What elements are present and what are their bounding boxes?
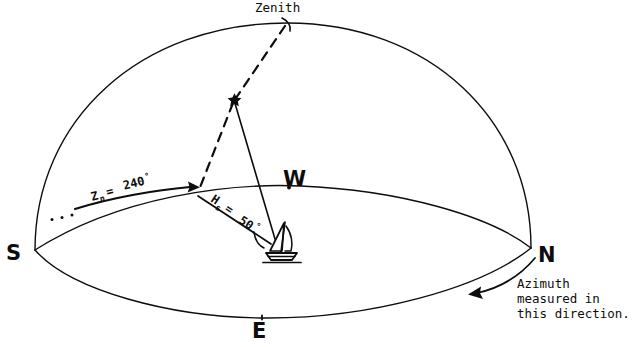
azimuth-lead-dot-2 (61, 216, 64, 219)
celestial-dome-arc (35, 23, 531, 250)
cardinal-label-west: W (283, 167, 306, 191)
zenith-to-star-dashed-line (236, 26, 285, 98)
celestial-sphere-drawing: Zenith S W N E Z n = 240 ° H s = 50 ° Az… (0, 0, 634, 347)
azimuth-degree-symbol: ° (143, 170, 150, 181)
azimuth-lead-dot-3 (71, 214, 74, 217)
cardinal-label-north: N (538, 243, 556, 267)
horizon-near-arc (35, 248, 531, 318)
direction-note-line-2: measured in (517, 291, 600, 306)
altitude-equals: = (222, 201, 236, 217)
direction-note-line-3: this direction. (517, 306, 630, 321)
cardinal-label-south: S (6, 241, 21, 265)
cardinal-label-east: E (252, 319, 266, 343)
celestial-sphere-diagram: Zenith S W N E Z n = 240 ° H s = 50 ° Az… (0, 0, 634, 347)
star-to-horizon-dashed-line (199, 103, 233, 190)
altitude-value: 50 (236, 213, 256, 233)
azimuth-subscript: n (99, 193, 106, 204)
azimuth-label-group: Z n = 240 ° (88, 170, 153, 205)
azimuth-equals: = (105, 184, 115, 199)
zenith-label: Zenith (255, 0, 300, 15)
azimuth-value: 240 (122, 174, 146, 193)
azimuth-lead-dot-1 (51, 218, 54, 221)
altitude-label-group: H s = 50 ° (207, 192, 263, 237)
direction-note-line-1: Azimuth (517, 276, 570, 291)
